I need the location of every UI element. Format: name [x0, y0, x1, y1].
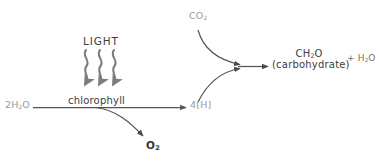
wavy-down-arrow-icon-2	[99, 50, 102, 83]
label-oxygen-output: O2	[146, 140, 160, 152]
arrow-carbon-dioxide-to-junction	[198, 30, 240, 65]
label-product-name: (carbohydrate)	[272, 60, 346, 71]
label-water-input-text: 2H	[5, 99, 19, 110]
diagram-vector-layer	[0, 0, 380, 164]
label-chlorophyll: chlorophyll	[68, 96, 125, 107]
label-carbon-dioxide: CO2	[189, 11, 207, 21]
wavy-down-arrow-icon-group	[85, 50, 116, 83]
label-water-input: 2H2O	[5, 100, 30, 110]
wavy-down-arrow-icon-1	[85, 50, 88, 83]
wavy-down-arrow-icon-3	[113, 50, 116, 83]
label-product-formula-text: CH	[296, 48, 311, 59]
label-carbon-dioxide-text: CO	[189, 10, 204, 21]
label-light: LIGHT	[83, 36, 119, 47]
label-oxygen-text: O	[146, 139, 155, 151]
label-water-output: + H2O	[347, 54, 376, 64]
label-product-formula-tail: O	[314, 48, 322, 59]
label-water-output-tail: O	[368, 53, 375, 63]
label-oxygen-subscript: 2	[155, 144, 160, 152]
label-water-output-text: + H	[347, 53, 365, 63]
photosynthesis-diagram: 2H2O LIGHT chlorophyll O2 4[H] CO2 CH2O …	[0, 0, 380, 164]
arrow-reduced-hydrogen-to-junction	[198, 69, 240, 103]
label-reduced-hydrogen: 4[H]	[190, 100, 211, 110]
label-carbon-dioxide-subscript: 2	[204, 15, 208, 21]
label-water-input-tail: O	[22, 99, 30, 110]
arrow-branch-to-oxygen	[96, 108, 143, 137]
label-product-carbohydrate: CH2O (carbohydrate)	[272, 49, 346, 70]
